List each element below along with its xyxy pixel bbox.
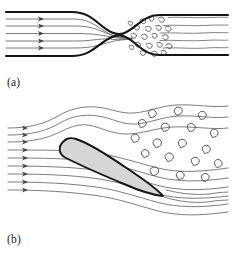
panel-b-trailing-wake-streaks [164, 190, 228, 202]
pipe-wall-bottom [6, 35, 228, 56]
vortex-spiral [191, 157, 199, 165]
pipe-wall-top [6, 12, 228, 34]
eddy [131, 33, 136, 38]
eddy [141, 34, 147, 39]
vortex-spiral [148, 110, 156, 118]
eddy [128, 21, 132, 25]
arrow-head [22, 132, 28, 137]
vortex-spiral [202, 145, 210, 153]
streak [160, 33, 228, 34]
eddy [152, 33, 157, 38]
eddy [156, 25, 161, 30]
streak [163, 25, 228, 26]
eddy [129, 45, 134, 49]
streamline [6, 39, 132, 41]
panel-b-illustration [0, 100, 235, 250]
vortex-spiral [174, 107, 182, 115]
panel-label-b: (b) [7, 233, 21, 245]
eddy [157, 42, 162, 47]
vortex-spiral [131, 134, 139, 142]
eddy [145, 26, 151, 31]
eddy [165, 26, 171, 31]
vortex-spiral [176, 171, 184, 179]
eddy [162, 35, 168, 40]
vortex-spiral [165, 153, 173, 161]
vortex-spiral [198, 111, 206, 119]
eddy [158, 17, 164, 22]
streak [160, 40, 228, 41]
eddy [146, 43, 152, 48]
arrow-head [22, 139, 28, 144]
vortex-spiral [178, 139, 186, 147]
vortex-spiral [210, 129, 218, 137]
vortex-spiral [153, 139, 162, 148]
streak [163, 48, 228, 49]
figure-root: (a) [0, 0, 235, 256]
vortex-spiral [214, 160, 222, 168]
vortex-spiral [141, 150, 149, 158]
wake-streak [166, 190, 228, 194]
panel-a-illustration [0, 0, 235, 100]
airfoil-body [60, 138, 163, 196]
panel-label-a: (a) [7, 76, 20, 88]
panel-a-downstream-streaks [160, 17, 228, 55]
panel-a-turbulent-eddies [128, 16, 172, 56]
panel-b-streamlines-upper [8, 105, 228, 142]
vortex-spiral [150, 167, 159, 176]
